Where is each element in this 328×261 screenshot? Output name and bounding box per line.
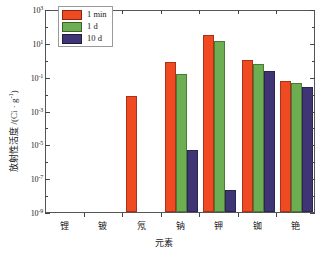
y-axis-tick-label: 101 bbox=[33, 39, 43, 50]
y-axis-tick bbox=[310, 145, 315, 146]
y-axis-tick bbox=[312, 162, 315, 163]
x-axis-tick bbox=[238, 213, 239, 217]
y-axis-tick bbox=[45, 95, 48, 96]
bar bbox=[225, 190, 236, 212]
y-axis-title-suffix: ) bbox=[9, 90, 19, 93]
y-axis-tick bbox=[312, 128, 315, 129]
y-axis-title-exponent: -1 bbox=[7, 93, 14, 98]
bar bbox=[302, 87, 313, 212]
y-axis-tick bbox=[45, 27, 48, 28]
y-axis-tick-label: 10-7 bbox=[31, 174, 43, 185]
y-axis-tick bbox=[312, 61, 315, 62]
y-axis-tick bbox=[312, 27, 315, 28]
x-axis-tick bbox=[161, 10, 162, 14]
y-axis-tick bbox=[45, 179, 50, 180]
x-axis-tick bbox=[276, 10, 277, 14]
x-axis-title: 元素 bbox=[0, 236, 328, 249]
y-axis-tick bbox=[310, 179, 315, 180]
y-axis-tick-label: 10-1 bbox=[31, 72, 43, 83]
legend-label: 1 min bbox=[87, 10, 107, 19]
bar bbox=[253, 64, 264, 212]
y-axis-tick bbox=[45, 78, 50, 79]
legend-label: 1 d bbox=[87, 22, 98, 31]
bar bbox=[280, 81, 291, 212]
y-axis-tick bbox=[45, 145, 50, 146]
figure: 10-910-710-510-310-1101103 锂铍氖钠钾铷铯 元素 放射… bbox=[0, 0, 328, 261]
x-axis-tick bbox=[122, 213, 123, 217]
bar bbox=[126, 96, 137, 212]
x-axis-tick bbox=[276, 213, 277, 217]
y-axis-tick bbox=[45, 128, 48, 129]
bar bbox=[203, 35, 214, 212]
x-axis-tick bbox=[199, 213, 200, 217]
legend-item: 1 d bbox=[62, 21, 107, 32]
bar bbox=[242, 60, 253, 212]
y-axis-tick bbox=[310, 78, 315, 79]
y-axis-tick bbox=[45, 61, 48, 62]
y-axis-tick bbox=[45, 112, 50, 113]
x-category-label: 钠 bbox=[176, 219, 185, 232]
y-axis-tick-label: 10-9 bbox=[31, 208, 43, 219]
bar bbox=[264, 71, 275, 212]
y-axis-tick bbox=[312, 196, 315, 197]
x-axis-tick bbox=[84, 213, 85, 217]
x-axis-tick bbox=[161, 213, 162, 217]
legend-item: 1 min bbox=[62, 9, 107, 20]
legend-label: 10 d bbox=[87, 34, 102, 43]
x-axis-tick bbox=[199, 10, 200, 14]
bar bbox=[214, 41, 225, 212]
y-axis-tick-label: 10-3 bbox=[31, 106, 43, 117]
x-category-label: 钾 bbox=[214, 219, 223, 232]
y-axis-tick bbox=[310, 10, 315, 11]
legend-swatch bbox=[62, 10, 82, 20]
x-category-label: 铷 bbox=[253, 219, 262, 232]
x-axis-tick bbox=[238, 10, 239, 14]
x-category-label: 铍 bbox=[98, 219, 107, 232]
bar bbox=[176, 74, 187, 212]
y-axis-title: 放射性活度 /(Ci · g-1) bbox=[7, 56, 20, 206]
x-category-label: 锂 bbox=[60, 219, 69, 232]
y-axis-tick-label: 10-5 bbox=[31, 140, 43, 151]
y-axis-tick bbox=[312, 95, 315, 96]
y-axis-tick bbox=[310, 112, 315, 113]
y-axis-tick bbox=[45, 10, 50, 11]
y-axis-tick-label: 103 bbox=[33, 5, 43, 16]
legend-item: 10 d bbox=[62, 33, 107, 44]
legend-swatch bbox=[62, 22, 82, 32]
y-axis-tick bbox=[45, 213, 50, 214]
legend: 1 min1 d10 d bbox=[58, 6, 113, 47]
x-axis-tick bbox=[122, 10, 123, 14]
y-axis-tick bbox=[310, 213, 315, 214]
bar bbox=[291, 83, 302, 212]
y-axis-title-prefix: 放射性活度 /(Ci · g bbox=[9, 98, 19, 171]
y-axis-tick bbox=[45, 44, 50, 45]
y-axis-tick bbox=[45, 162, 48, 163]
x-category-label: 铯 bbox=[291, 219, 300, 232]
x-category-label: 氖 bbox=[137, 219, 146, 232]
y-axis-tick bbox=[45, 196, 48, 197]
legend-swatch bbox=[62, 34, 82, 44]
bar bbox=[187, 150, 198, 212]
bar bbox=[165, 62, 176, 212]
y-axis-tick bbox=[310, 44, 315, 45]
